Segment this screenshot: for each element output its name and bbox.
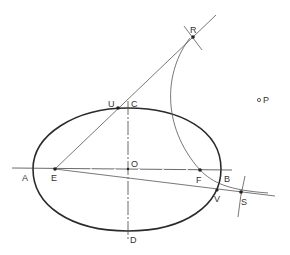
- label-C: C: [131, 99, 138, 109]
- label-A: A: [22, 173, 28, 183]
- point-E: [53, 167, 57, 171]
- point-V: [215, 188, 218, 191]
- label-F: F: [196, 175, 202, 185]
- label-V: V: [214, 194, 220, 204]
- label-B: B: [224, 174, 230, 184]
- point-R: [191, 35, 195, 39]
- label-P: P: [263, 95, 269, 105]
- point-U: [116, 106, 120, 110]
- label-O: O: [131, 159, 138, 169]
- diagram-canvas: A E O F B V S C U D R P: [0, 0, 290, 255]
- point-P: [257, 98, 260, 101]
- label-S: S: [241, 197, 247, 207]
- label-R: R: [190, 25, 197, 35]
- label-D: D: [130, 235, 137, 245]
- label-E: E: [51, 173, 57, 183]
- point-O: [127, 168, 129, 170]
- point-S: [239, 190, 243, 194]
- point-F: [198, 168, 202, 172]
- label-U: U: [108, 99, 115, 109]
